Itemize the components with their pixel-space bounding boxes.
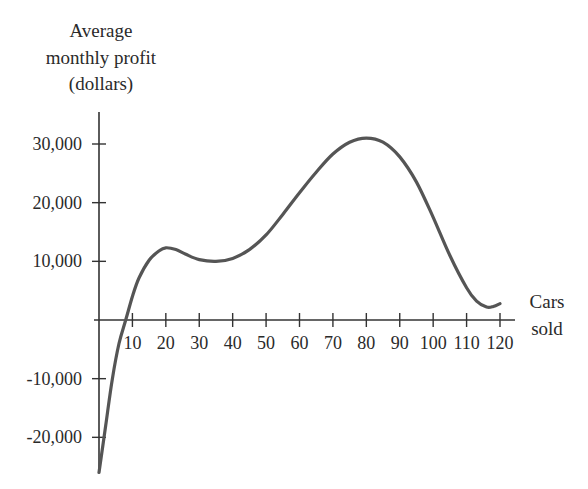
x-tick-label: 100 (420, 333, 447, 353)
x-tick-label: 40 (224, 333, 242, 353)
x-tick-label: 110 (453, 333, 479, 353)
y-axis-title-line3: (dollars) (69, 73, 133, 95)
y-tick-label: 10,000 (33, 251, 83, 271)
x-tick-label: 10 (123, 333, 141, 353)
x-tick-label: 90 (391, 333, 409, 353)
y-tick-label: -20,000 (27, 427, 83, 447)
y-tick-label: -10,000 (27, 369, 83, 389)
x-tick-label: 50 (257, 333, 275, 353)
x-ticks: 102030405060708090100110120 (123, 313, 513, 353)
y-ticks: 30,00020,00010,000-10,000-20,000 (27, 134, 107, 447)
x-tick-label: 120 (487, 333, 514, 353)
y-axis-title-line2: monthly profit (46, 47, 157, 68)
profit-chart: Average monthly profit (dollars) Cars so… (0, 0, 588, 489)
y-tick-label: 20,000 (33, 193, 83, 213)
x-tick-label: 30 (190, 333, 208, 353)
x-tick-label: 70 (324, 333, 342, 353)
y-tick-label: 30,000 (33, 134, 83, 154)
x-tick-label: 20 (157, 333, 175, 353)
x-axis-title-line1: Cars (530, 291, 565, 312)
y-axis-title-line1: Average (70, 20, 133, 41)
x-axis-title-line2: sold (531, 318, 563, 339)
profit-curve (99, 138, 500, 472)
x-tick-label: 80 (357, 333, 375, 353)
x-tick-label: 60 (291, 333, 309, 353)
